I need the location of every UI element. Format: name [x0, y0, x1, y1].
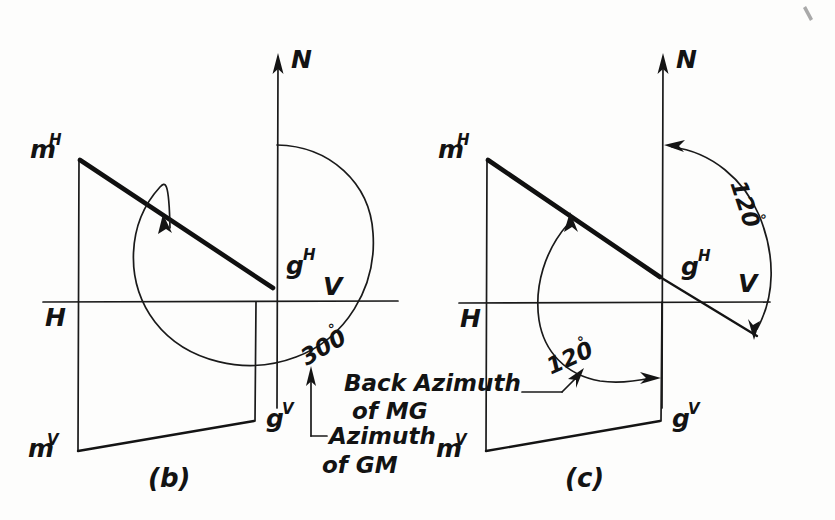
panel-b-g-h-sup: H: [303, 246, 316, 264]
panel-c-label-h: H: [460, 304, 481, 333]
panel-b-gm-line: [80, 160, 273, 288]
panel-b: m H g H m V g V N H V: [28, 45, 436, 493]
panel-c-angle-lower: 120 °: [540, 332, 596, 380]
panel-c-upper-arc-arrowhead-bottom-icon: [748, 319, 760, 340]
north-axis-line: [277, 62, 278, 408]
panel-c-g-v-sup: V: [688, 400, 701, 418]
panel-b-note-azimuth-of-gm: Azimuth of GM: [322, 423, 436, 478]
panel-c-m-h-sup: H: [457, 131, 470, 149]
panel-c-label-g-v: g V: [672, 400, 701, 433]
panel-b-bottom-edge: [78, 421, 254, 451]
panel-c-label-north: N: [676, 45, 697, 74]
panel-c-gm-line: [488, 160, 660, 277]
panel-b-label-h: H: [45, 303, 66, 332]
panel-b-label-m-v: m V: [28, 431, 60, 463]
panel-c-upper-arc-arrowhead-top-icon: [664, 140, 685, 152]
panel-b-ground-line: [43, 301, 398, 302]
panel-c-gv-vertical: [661, 302, 662, 421]
panel-c-angle-upper-value: 120: [726, 177, 766, 231]
panel-b-gv-vertical: [255, 302, 256, 421]
panel-c-north-axis: [658, 53, 669, 408]
panel-b-angle-300-value: 300: [296, 324, 351, 371]
panel-b-g-v-sup: V: [282, 400, 295, 418]
panel-c-note-back-azimuth-of-mg: Back Azimuth of MG: [344, 370, 521, 424]
panel-c-g-h-sup: H: [698, 247, 711, 265]
panel-c-label-m-v: m V: [436, 431, 468, 463]
panel-b-m-v-sup: V: [47, 431, 60, 449]
page-ink-smudge: [803, 6, 813, 21]
panel-c-lower-arc-arrowhead-right-icon: [640, 372, 661, 384]
panel-b-label-m-h: m H: [30, 131, 62, 164]
panel-b-caption: (b): [148, 463, 190, 493]
panel-c-label-g-h: g H: [681, 247, 711, 281]
panel-b-label-g-v: g V: [266, 400, 295, 433]
panel-c-m-v-sup: V: [455, 431, 468, 449]
panel-c-bottom-edge: [486, 421, 660, 451]
panel-b-note-line2: of GM: [322, 452, 398, 478]
azimuth-figure-svg: m H g H m V g V N H V: [0, 0, 835, 520]
panel-c-left-edge: [486, 159, 487, 451]
panel-b-north-axis: [273, 53, 284, 408]
panel-b-note-line1: Azimuth: [327, 423, 436, 449]
panel-c-caption: (c): [565, 463, 604, 493]
panel-b-g-h-base: g: [286, 251, 304, 280]
panel-c-note-line2: of MG: [352, 398, 428, 424]
panel-c-angle-lower-value: 120: [543, 336, 597, 379]
panel-b-label-north: N: [291, 45, 312, 74]
panel-c-angle-upper: 120 °: [726, 176, 770, 231]
panel-c-label-m-h: m H: [438, 131, 470, 164]
panel-c-g-h-base: g: [681, 252, 699, 281]
figure-root: m H g H m V g V N H V: [0, 0, 835, 520]
panel-b-m-h-sup: H: [49, 131, 62, 149]
panel-c-note-line1: Back Azimuth: [344, 370, 521, 396]
panel-b-azimuth-leader: [306, 366, 327, 436]
panel-b-label-g-h: g H: [286, 246, 316, 280]
panel-c-label-v: V: [738, 269, 759, 298]
panel-b-label-v: V: [323, 272, 344, 301]
panel-c-ground-line: [459, 302, 770, 303]
panel-b-left-edge: [78, 159, 79, 451]
